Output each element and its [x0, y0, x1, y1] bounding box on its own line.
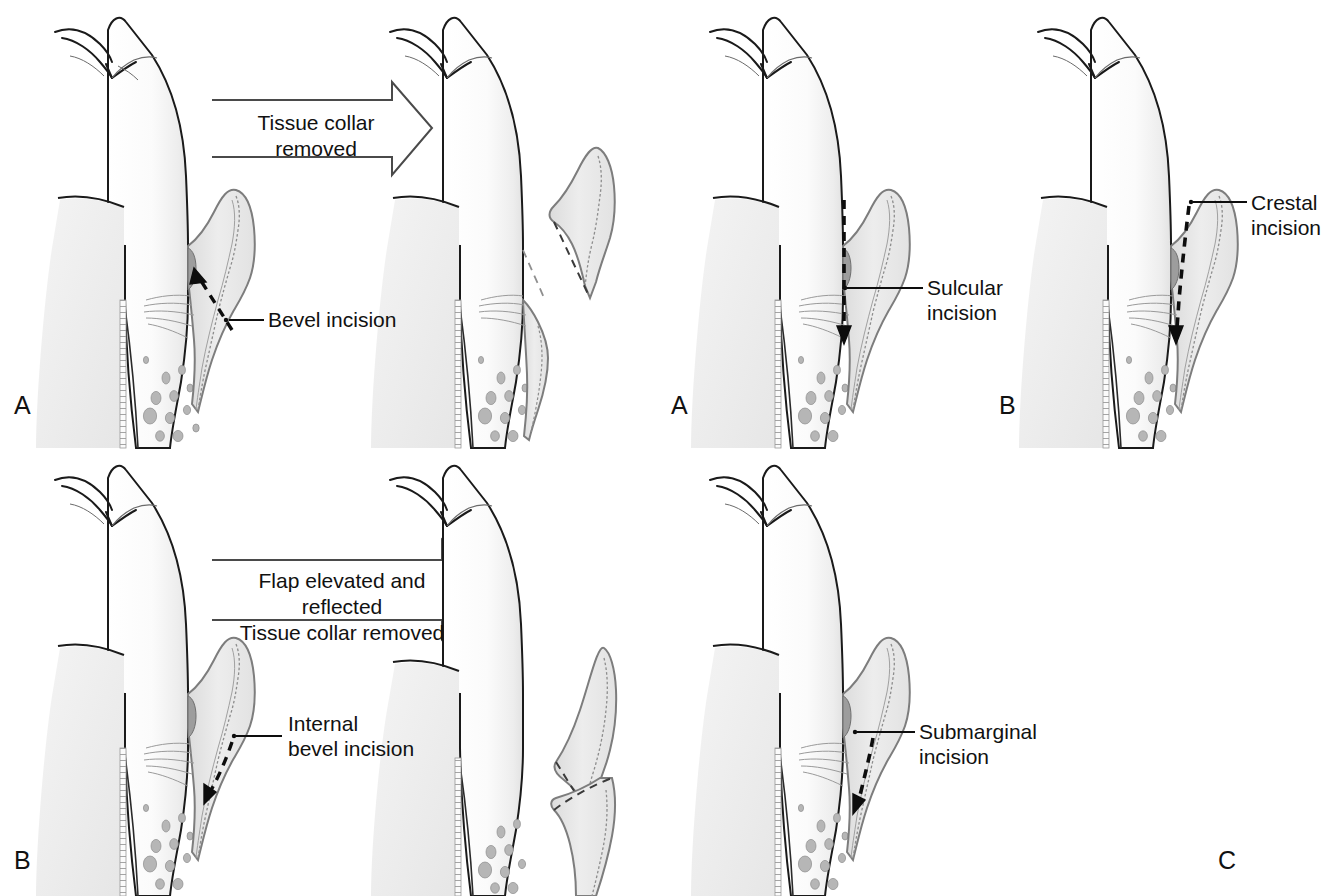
gingival-remnant: [523, 300, 548, 440]
collar-outline: [551, 778, 615, 896]
bone-fill: [36, 198, 124, 448]
periodontal-ligament: [120, 300, 126, 448]
periodontal-ligament: [455, 758, 461, 896]
cusp-detail-1: [70, 56, 104, 76]
leader-dot: [232, 734, 236, 738]
cusp-ridge-inner: [62, 486, 112, 526]
process-arrow-label: Flap elevated and reflected Tissue colla…: [222, 568, 462, 646]
cusp-ridge-left: [390, 29, 447, 62]
panel-sulcular-incision: Sulcular incision A: [655, 0, 983, 448]
cusp-ridge-left: [710, 29, 767, 62]
cusp-detail-1: [70, 504, 104, 524]
panel-letter-b: B: [999, 393, 1016, 418]
panel-letter-a: A: [671, 393, 688, 418]
bone-fill: [36, 646, 124, 896]
cusp-ridge-left: [55, 477, 112, 510]
cusp-ridge-left: [55, 29, 112, 62]
removed-collar-dashed-trace: [523, 250, 545, 300]
illustration-internal-bevel-incision: [0, 448, 655, 896]
leader-dot: [843, 286, 847, 290]
panel-letter-c: C: [1218, 848, 1236, 873]
bone-fill: [691, 646, 779, 896]
cusp-ridge-left: [710, 477, 767, 510]
periodontal-ligament: [775, 300, 781, 448]
cusp-ridge-inner: [1045, 38, 1095, 78]
cusp-ridge-inner: [62, 38, 112, 78]
leader-dot: [1189, 200, 1193, 204]
cusp-ridge-left: [1038, 29, 1095, 62]
panel-internal-bevel-incision: Flap elevated and reflected Tissue colla…: [0, 448, 655, 896]
cusp-detail-1: [1053, 56, 1087, 76]
callout-bevel-incision: Bevel incision: [268, 307, 396, 332]
excised-tissue-collar: [550, 148, 615, 298]
periodontal-ligament: [775, 748, 781, 896]
callout-internal-bevel-incision: Internal bevel incision: [288, 711, 468, 761]
panel-letter-a: A: [14, 393, 31, 418]
cusp-ridge-left: [390, 477, 447, 510]
bone-fill: [1019, 198, 1107, 448]
periodontal-ligament: [120, 748, 126, 896]
cusp-detail-1: [725, 504, 759, 524]
panel-letter-b: B: [14, 848, 31, 873]
excised-tissue-collar-internal: [551, 778, 615, 896]
panel-crestal-incision: Crestal incision B: [983, 0, 1311, 448]
process-arrow-label: Tissue collar removed: [236, 110, 396, 162]
periodontal-ligament: [455, 300, 461, 448]
tissue-collar-outline: [550, 148, 615, 298]
illustration-sulcular-incision: [655, 0, 983, 448]
leader-dot: [853, 730, 857, 734]
cusp-ridge-inner: [717, 486, 767, 526]
bone-fill: [691, 198, 779, 448]
cusp-detail-1: [405, 56, 439, 76]
cusp-detail-1: [725, 56, 759, 76]
periodontal-ligament: [1103, 300, 1109, 448]
cusp-ridge-inner: [397, 486, 447, 526]
cusp-ridge-inner: [397, 38, 447, 78]
illustration-submarginal-incision: [655, 448, 1311, 896]
cusp-ridge-inner: [717, 38, 767, 78]
bone-fill: [371, 662, 459, 896]
callout-submarginal-incision: Submarginal incision: [919, 719, 1119, 769]
illustration-bevel-incision: [0, 0, 655, 448]
leader-dot: [224, 318, 228, 322]
panel-bevel-incision: Tissue collar removed Bevel incision A: [0, 0, 655, 448]
panel-submarginal-incision: Submarginal incision C: [655, 448, 1311, 896]
callout-crestal-incision: Crestal incision: [1251, 190, 1325, 240]
